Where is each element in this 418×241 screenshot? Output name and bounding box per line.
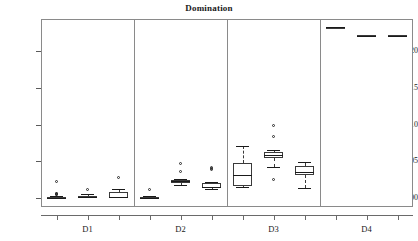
panel-divider	[320, 19, 321, 207]
chart-title: Domination	[0, 3, 418, 13]
panel-label-d4: D4	[337, 224, 397, 234]
boxplot-chart: Domination 0.000.050.100.150.20 D1D2D3D4	[0, 0, 418, 241]
panel-divider	[134, 19, 135, 207]
panel-label-d3: D3	[244, 224, 304, 234]
panel-label-d2: D2	[151, 224, 211, 234]
x-axis-line	[41, 215, 413, 216]
panel-divider	[227, 19, 228, 207]
panel-label-d1: D1	[58, 224, 118, 234]
